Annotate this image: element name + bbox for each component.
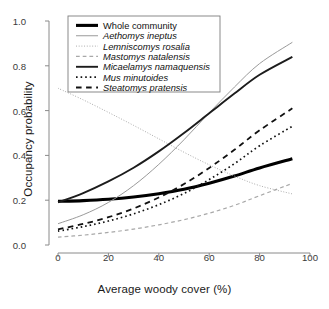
legend-label-0: Whole community [103, 21, 177, 31]
series-line-0 [58, 159, 292, 202]
series-line-2 [58, 88, 292, 194]
occupancy-probability-chart: Occupancy probability Average woody cove… [0, 0, 329, 309]
legend-label-2: Lemniscomys rosalia [103, 42, 190, 52]
legend-label-1: Aethomys ineptus [102, 31, 177, 41]
plot-canvas: Whole communityAethomys ineptusLemniscom… [0, 0, 329, 309]
legend-label-6: Steatomys pratensis [103, 83, 188, 93]
legend-label-4: Micaelamys namaquensis [103, 62, 210, 72]
legend-label-3: Mastomys natalensis [103, 52, 190, 62]
legend-box: Whole communityAethomys ineptusLemniscom… [68, 16, 220, 93]
series-line-5 [58, 126, 292, 231]
legend-label-5: Mus minutoides [103, 73, 168, 83]
